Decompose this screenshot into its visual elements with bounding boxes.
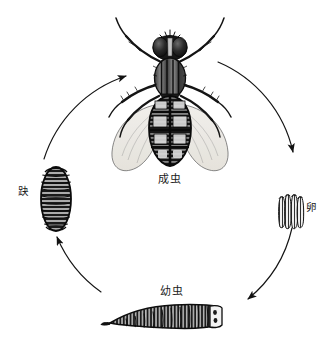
larva-illustration bbox=[101, 305, 222, 329]
arrow-adult-to-egg bbox=[218, 62, 293, 152]
adult-fly-illustration bbox=[109, 18, 231, 171]
larva-posterior-spiracles bbox=[210, 306, 222, 328]
stage-label-larva: 幼虫 bbox=[160, 286, 183, 298]
stage-label-adult: 成虫 bbox=[158, 174, 181, 186]
fly-head bbox=[153, 30, 187, 61]
fly-thorax bbox=[153, 58, 187, 100]
stage-label-egg: 卵 bbox=[304, 202, 315, 214]
fly-compound-eye-right bbox=[172, 37, 187, 56]
egg-2 bbox=[285, 195, 292, 229]
fly-abdomen bbox=[149, 96, 191, 166]
arrow-egg-to-larva bbox=[248, 228, 292, 299]
egg-4 bbox=[297, 197, 304, 228]
egg-cluster-illustration bbox=[279, 195, 304, 229]
pupa-illustration bbox=[41, 167, 71, 231]
fly-life-cycle-figure: 成虫 卵 幼虫 趹 bbox=[0, 0, 333, 352]
arrow-larva-to-pupa bbox=[57, 237, 101, 292]
fly-compound-eye-left bbox=[153, 37, 168, 56]
stage-label-pupa: 趹 bbox=[16, 186, 27, 198]
